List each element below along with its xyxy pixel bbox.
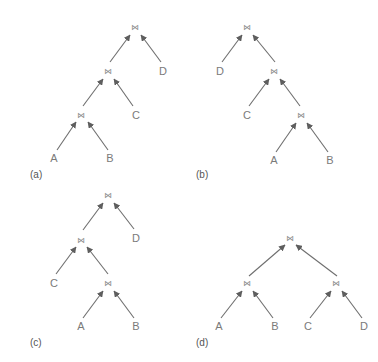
leaf-relation-c: C	[132, 109, 140, 121]
join-tree-a: ⋈⋈⋈ABCD(a)	[30, 23, 167, 180]
edge-arrow	[114, 203, 134, 229]
join-trees-diagram: ⋈⋈⋈ABCD(a)⋈⋈⋈DCAB(b)⋈⋈⋈DCAB(c)⋈⋈⋈ABCD(d)	[0, 0, 378, 362]
leaf-relation-d: D	[216, 65, 224, 77]
leaf-relation-a: A	[215, 320, 223, 332]
join-tree-c: ⋈⋈⋈DCAB(c)	[30, 191, 140, 348]
join-tree-b: ⋈⋈⋈DCAB(b)	[196, 23, 334, 180]
leaf-relation-b: B	[271, 320, 278, 332]
edge-arrow	[83, 79, 103, 106]
join-node-icon: ⋈	[243, 23, 251, 32]
join-node-icon: ⋈	[104, 191, 112, 200]
leaf-relation-c: C	[50, 277, 58, 289]
leaf-relation-c: C	[304, 320, 312, 332]
leaf-relation-a: A	[50, 152, 58, 164]
edge-arrow	[83, 291, 103, 318]
edge-arrow	[88, 122, 108, 150]
join-node-icon: ⋈	[104, 279, 112, 288]
edge-arrow	[276, 123, 296, 152]
leaf-relation-b: B	[106, 152, 113, 164]
edge-arrow	[280, 79, 300, 106]
subfigure-caption: (d)	[196, 337, 208, 348]
leaf-relation-a: A	[77, 320, 85, 332]
join-tree-d: ⋈⋈⋈ABCD(d)	[196, 234, 368, 348]
subfigure-caption: (b)	[196, 169, 208, 180]
subfigure-caption: (c)	[30, 337, 42, 348]
join-node-icon: ⋈	[131, 23, 139, 32]
edge-arrow	[296, 245, 337, 276]
edge-arrow	[141, 35, 161, 62]
join-node-icon: ⋈	[77, 111, 85, 120]
edge-arrow	[307, 123, 328, 152]
join-node-icon: ⋈	[332, 279, 340, 288]
edge-arrow	[110, 35, 130, 62]
edge-arrow	[114, 79, 133, 106]
join-node-icon: ⋈	[77, 236, 85, 245]
leaf-relation-b: B	[132, 320, 139, 332]
leaf-relation-a: A	[270, 154, 278, 166]
join-node-icon: ⋈	[297, 111, 305, 120]
edge-arrow	[249, 79, 269, 106]
edge-arrow	[57, 122, 76, 150]
edge-arrow	[83, 203, 103, 230]
join-node-icon: ⋈	[243, 279, 251, 288]
leaf-relation-c: C	[243, 109, 251, 121]
leaf-relation-d: D	[132, 232, 140, 244]
leaf-relation-d: D	[360, 320, 368, 332]
edge-arrow	[222, 35, 242, 62]
edge-arrow	[114, 291, 134, 318]
edge-arrow	[87, 247, 108, 274]
leaf-relation-d: D	[159, 65, 167, 77]
edge-arrow	[253, 35, 275, 62]
edge-arrow	[253, 291, 273, 318]
leaf-relation-b: B	[326, 154, 333, 166]
edge-arrow	[310, 291, 331, 318]
edge-arrow	[56, 247, 76, 274]
edge-arrow	[221, 291, 242, 318]
edge-arrow	[342, 291, 362, 318]
edge-arrow	[249, 245, 285, 276]
subfigure-caption: (a)	[30, 169, 42, 180]
join-node-icon: ⋈	[104, 67, 112, 76]
join-node-icon: ⋈	[286, 234, 294, 243]
trees-group: ⋈⋈⋈ABCD(a)⋈⋈⋈DCAB(b)⋈⋈⋈DCAB(c)⋈⋈⋈ABCD(d)	[30, 23, 368, 348]
join-node-icon: ⋈	[270, 67, 278, 76]
